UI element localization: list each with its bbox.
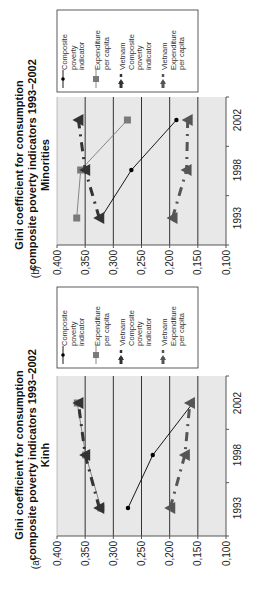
chart-title: composite poverty indicators 1993–2002 <box>26 349 38 561</box>
y-tick-label: 0,200 <box>164 541 175 566</box>
y-tick-label: 0,350 <box>80 250 91 275</box>
chart-panel-a: 0,4000,3500,3000,2500,2000,1500,10019931… <box>13 287 243 569</box>
square-marker <box>124 117 131 124</box>
panel-label: (b) <box>30 266 41 278</box>
x-category-label: 1993 <box>232 206 243 229</box>
y-tick-label: 0,150 <box>192 250 203 275</box>
y-tick-label: 0,100 <box>221 250 232 275</box>
legend-label: indicator <box>77 41 86 70</box>
y-tick-label: 0,400 <box>52 541 63 566</box>
panel-label: (a) <box>30 557 41 569</box>
legend-square-icon <box>93 76 99 82</box>
dot-marker <box>126 506 130 510</box>
x-category-label: 1998 <box>232 158 243 181</box>
y-tick-label: 0,400 <box>52 250 63 275</box>
legend-label: indicator <box>77 317 86 346</box>
chart-title: composite poverty indicators 1993–2002 <box>26 59 38 271</box>
x-category-label: 2002 <box>232 108 243 131</box>
y-tick-label: 0,100 <box>221 541 232 566</box>
square-marker <box>73 215 80 222</box>
y-tick-label: 0,300 <box>108 250 119 275</box>
x-category-label: 1998 <box>232 443 243 466</box>
legend-label: per capita <box>177 36 186 70</box>
y-tick-label: 0,350 <box>80 541 91 566</box>
dot-marker <box>174 118 178 122</box>
chart-title: Gini coefficient for consumption <box>13 370 25 540</box>
legend-label: indicator <box>144 317 153 346</box>
dot-marker <box>151 453 155 457</box>
chart-title: Gini coefficient for consumption <box>13 80 25 250</box>
figure: 0,4000,3500,3000,2500,2000,1500,10019931… <box>0 0 256 602</box>
legend-dot-icon <box>61 77 65 81</box>
y-tick-label: 0,300 <box>108 541 119 566</box>
y-tick-label: 0,250 <box>136 541 147 566</box>
legend-dot-icon <box>61 353 65 357</box>
legend-label: per capita <box>102 36 111 70</box>
x-category-label: 2002 <box>232 391 243 414</box>
legend-label: per capita <box>177 312 186 346</box>
y-tick-label: 0,200 <box>164 250 175 275</box>
legend-square-icon <box>93 352 99 358</box>
chart-panel-b: 0,4000,3500,3000,2500,2000,1500,10019931… <box>13 10 243 278</box>
chart-subtitle: Minorities <box>39 139 51 191</box>
chart-subtitle: Kinh <box>39 443 51 468</box>
dot-marker <box>129 168 133 172</box>
legend-label: indicator <box>144 41 153 70</box>
y-tick-label: 0,150 <box>192 541 203 566</box>
x-category-label: 1993 <box>232 496 243 519</box>
y-tick-label: 0,250 <box>136 250 147 275</box>
legend-label: per capita <box>102 312 111 346</box>
